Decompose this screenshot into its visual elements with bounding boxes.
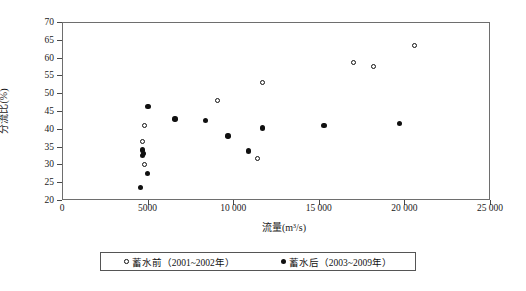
open-circle-icon	[124, 259, 129, 264]
y-tick-label: 65	[45, 35, 55, 45]
data-point	[246, 148, 251, 153]
y-tick-label: 50	[45, 88, 55, 98]
legend-item-after-impoundment: 蓄水后（2003~2009年）	[281, 255, 392, 269]
y-axis-title: 分流比(%)	[0, 89, 10, 134]
data-point	[145, 104, 150, 109]
filled-circle-icon	[281, 259, 286, 264]
x-axis-title-text: 流量(m³/s)	[262, 222, 306, 233]
y-tick-mark	[57, 111, 62, 112]
data-point	[172, 116, 177, 121]
data-point	[397, 121, 402, 126]
y-tick-label: 60	[45, 53, 55, 63]
y-tick-mark	[57, 129, 62, 130]
chart-legend: 蓄水前（2001~2002年） 蓄水后（2003~2009年）	[100, 252, 416, 271]
x-tick-label: 10 000	[220, 203, 246, 214]
x-axis-title: 流量(m³/s)	[0, 219, 526, 234]
y-tick-mark	[57, 22, 62, 23]
legend-label-after-impoundment: 蓄水后（2003~2009年）	[289, 255, 392, 269]
y-tick-label: 45	[45, 106, 55, 116]
y-tick-label: 25	[45, 177, 55, 187]
y-tick-label: 55	[45, 70, 55, 80]
y-tick-mark	[57, 164, 62, 165]
y-tick-label: 70	[45, 17, 55, 27]
legend-label-before-impoundment: 蓄水前（2001~2002年）	[132, 255, 235, 269]
legend-item-before-impoundment: 蓄水前（2001~2002年）	[124, 255, 235, 269]
y-tick-mark	[57, 75, 62, 76]
scatter-chart-figure: 2025303540455055606570 0500010 00015 000…	[0, 0, 526, 291]
x-tick-label: 5000	[138, 203, 157, 214]
y-tick-mark	[57, 40, 62, 41]
data-point	[142, 123, 147, 128]
x-tick-label: 15 000	[306, 203, 332, 214]
y-tick-mark	[57, 93, 62, 94]
y-tick-mark	[57, 182, 62, 183]
plot-area	[62, 22, 490, 200]
y-tick-mark	[57, 147, 62, 148]
y-tick-label: 40	[45, 124, 55, 134]
y-tick-label: 20	[45, 195, 55, 205]
data-point	[321, 123, 326, 128]
x-tick-label: 0	[60, 203, 65, 214]
data-point	[260, 80, 265, 85]
y-tick-mark	[57, 200, 62, 201]
data-point	[142, 162, 147, 167]
y-tick-label: 35	[45, 142, 55, 152]
data-point	[225, 133, 230, 138]
x-tick-label: 20 000	[391, 203, 417, 214]
data-point	[255, 156, 260, 161]
data-point	[412, 43, 417, 48]
x-tick-label: 25 000	[477, 203, 503, 214]
y-tick-mark	[57, 58, 62, 59]
data-point	[260, 125, 265, 130]
y-tick-label: 30	[45, 159, 55, 169]
